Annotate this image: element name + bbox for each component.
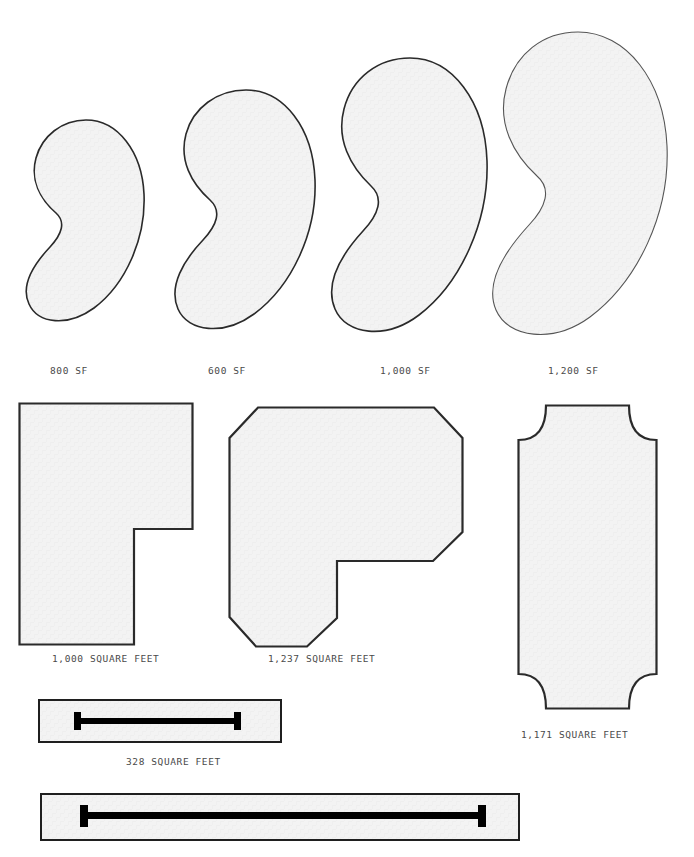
bean-caption-800sf: 800 SF [50,366,88,376]
polygon-caption-1237sf: 1,237 SQUARE FEET [268,654,375,664]
polygon-caption-1000sf: 1,000 SQUARE FEET [52,654,159,664]
bean-caption-1000sf: 1,000 SF [380,366,431,376]
dimension-bar-long [40,793,520,841]
bean-shape-1000sf [326,56,490,336]
bean-caption-600sf: 600 SF [208,366,246,376]
bean-shape-800sf [22,118,146,323]
notched-floorplate-1171sf [517,404,658,710]
dimension-bar-328sf [38,699,282,743]
lshape-floorplate-1000sf [18,402,194,646]
polygon-caption-1171sf: 1,171 SQUARE FEET [521,730,628,740]
bean-shape-600sf [170,88,318,332]
bean-caption-1200sf: 1,200 SF [548,366,599,376]
bar-caption-328sf: 328 SQUARE FEET [126,757,221,767]
bean-shape-1200sf [486,30,670,340]
area-diagram-page: 800 SF 600 SF 1,000 SF 1,200 SF 1,000 SQ… [0,0,694,857]
octagon-floorplate-1237sf [228,406,464,648]
